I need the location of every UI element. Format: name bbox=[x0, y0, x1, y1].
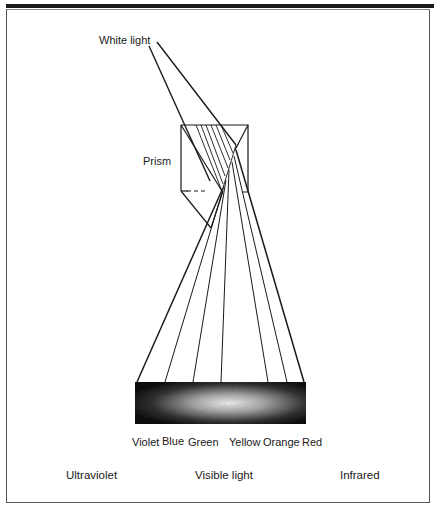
prism-label: Prism bbox=[143, 155, 171, 167]
spectrum-label-red: Red bbox=[302, 436, 322, 448]
spectrum-label-yellow: Yellow bbox=[229, 436, 260, 448]
spectrum-label-green: Green bbox=[188, 436, 219, 448]
spectrum-bar bbox=[135, 382, 306, 424]
dispersed-rays bbox=[137, 150, 304, 382]
white-light-label: White light bbox=[99, 34, 150, 46]
spectrum-label-violet: Violet bbox=[132, 436, 159, 448]
spectrum-label-orange: Orange bbox=[263, 436, 300, 448]
prism-shape bbox=[181, 125, 248, 228]
region-label-ultraviolet: Ultraviolet bbox=[66, 469, 117, 481]
region-label-infrared: Infrared bbox=[340, 469, 380, 481]
prism-dispersion-diagram bbox=[0, 0, 438, 510]
region-label-visible-light: Visible light bbox=[195, 469, 253, 481]
spectrum-label-blue: Blue bbox=[162, 435, 184, 447]
